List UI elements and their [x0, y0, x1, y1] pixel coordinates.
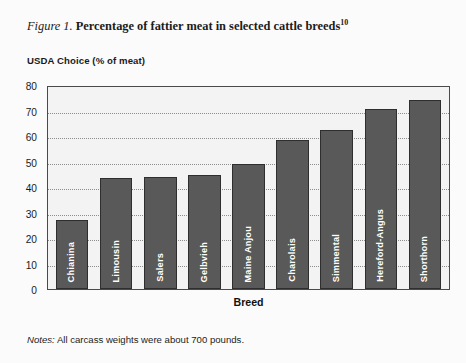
bar-slot: Limousin — [94, 87, 138, 289]
bar-label: Gelbvieh — [200, 242, 209, 282]
bar-label: Limousin — [112, 240, 121, 282]
bar-label: Shorthorn — [420, 236, 429, 282]
bar-label: Simmental — [332, 234, 341, 282]
bar-slot: Hereford-Angus — [359, 87, 403, 289]
y-axis-tick-10: 10 — [0, 259, 42, 270]
figure-footnote-marker: 10 — [340, 18, 348, 27]
y-axis-tick-50: 50 — [0, 157, 42, 168]
bar-chianina[interactable]: Chianina — [56, 220, 89, 289]
bar-slot: Maine Anjou — [226, 87, 270, 289]
bar-salers[interactable]: Salers — [144, 177, 177, 289]
bar-limousin[interactable]: Limousin — [100, 178, 133, 289]
bar-slot: Salers — [138, 87, 182, 289]
figure-container: Figure 1. Percentage of fattier meat in … — [0, 0, 466, 363]
y-axis-tick-20: 20 — [0, 234, 42, 245]
bar-slot: Chianina — [50, 87, 94, 289]
y-axis-tick-0: 0 — [0, 285, 42, 296]
figure-caption: Figure 1. Percentage of fattier meat in … — [27, 18, 447, 34]
y-axis-tick-labels: 80706050403020100 — [0, 86, 42, 290]
bar-slot: Charolais — [271, 87, 315, 289]
figure-number: Figure 1. — [27, 19, 73, 33]
bar-maine-anjou[interactable]: Maine Anjou — [232, 164, 265, 289]
bar-series: ChianinaLimousinSalersGelbviehMaine Anjo… — [48, 87, 449, 289]
y-axis-tick-40: 40 — [0, 183, 42, 194]
bar-label: Hereford-Angus — [376, 209, 385, 282]
bar-simmental[interactable]: Simmental — [320, 130, 353, 289]
bar-charolais[interactable]: Charolais — [276, 140, 309, 289]
bar-slot: Gelbvieh — [182, 87, 226, 289]
figure-title: Percentage of fattier meat in selected c… — [76, 19, 341, 33]
y-axis-tick-80: 80 — [0, 81, 42, 92]
y-axis-tick-60: 60 — [0, 132, 42, 143]
y-axis-tick-70: 70 — [0, 106, 42, 117]
bar-gelbvieh[interactable]: Gelbvieh — [188, 175, 221, 289]
notes-text: All carcass weights were about 700 pound… — [57, 334, 244, 345]
figure-notes: Notes: All carcass weights were about 70… — [27, 334, 244, 345]
notes-label: Notes: — [27, 334, 55, 345]
y-axis-tick-30: 30 — [0, 208, 42, 219]
bar-slot: Shorthorn — [403, 87, 447, 289]
bar-label: Chianina — [67, 242, 76, 282]
bar-slot: Simmental — [315, 87, 359, 289]
x-axis-title: Breed — [47, 296, 450, 308]
bar-shorthorn[interactable]: Shorthorn — [409, 100, 442, 289]
bar-hereford-angus[interactable]: Hereford-Angus — [365, 109, 398, 289]
plot-area: ChianinaLimousinSalersGelbviehMaine Anjo… — [47, 86, 450, 290]
bar-label: Charolais — [288, 238, 297, 282]
y-axis-title: USDA Choice (% of meat) — [27, 55, 145, 66]
bar-label: Maine Anjou — [244, 226, 253, 282]
bar-label: Salers — [156, 253, 165, 282]
